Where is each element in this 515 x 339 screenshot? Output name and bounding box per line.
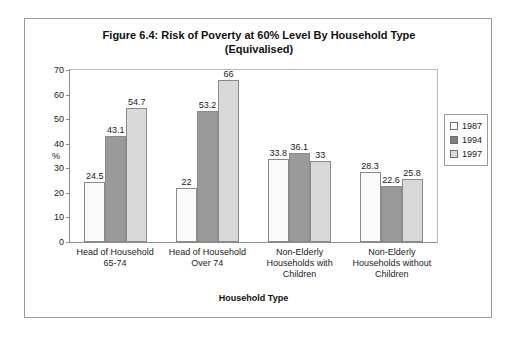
x-category-label-line: Non-Elderly — [348, 247, 436, 258]
x-category-label-line: Households with — [256, 258, 344, 269]
x-category-label: Non-ElderlyHouseholds withChildren — [256, 247, 344, 280]
bar-1997-0[interactable]: 54.7 — [126, 108, 147, 242]
x-category-label-line: Children — [348, 269, 436, 280]
bar-1994-1[interactable]: 53.2 — [197, 111, 218, 242]
bar-value-label: 43.1 — [107, 125, 125, 135]
bar-1994-0[interactable]: 43.1 — [105, 136, 126, 242]
bar-group: 33.836.133 — [268, 70, 331, 242]
bar-value-label: 22 — [182, 177, 192, 187]
x-category-label-line: Children — [256, 269, 344, 280]
chart-title-line-1: Figure 6.4: Risk of Poverty at 60% Level… — [25, 28, 493, 42]
bar-value-label: 25.8 — [403, 168, 421, 178]
bar-1987-1[interactable]: 22 — [176, 188, 197, 242]
bar-group: 24.543.154.7 — [84, 70, 147, 242]
y-tick-30: 30 — [54, 163, 70, 173]
x-axis-category-labels: Head of Household65-74Head of HouseholdO… — [69, 247, 438, 280]
legend-swatch-icon — [450, 136, 458, 144]
bar-1994-3[interactable]: 22.6 — [381, 186, 402, 242]
bar-1997-1[interactable]: 66 — [218, 80, 239, 242]
x-category-label: Non-ElderlyHouseholds withoutChildren — [348, 247, 436, 280]
bar-1994-2[interactable]: 36.1 — [289, 153, 310, 242]
bar-1997-3[interactable]: 25.8 — [402, 179, 423, 242]
x-category-label: Head of Household65-74 — [71, 247, 159, 280]
legend-swatch-icon — [450, 150, 458, 158]
bar-1987-3[interactable]: 28.3 — [360, 172, 381, 242]
y-tick-60: 60 — [54, 90, 70, 100]
y-tick-10: 10 — [54, 212, 70, 222]
legend-label: 1994 — [462, 135, 482, 145]
legend-swatch-icon — [450, 122, 458, 130]
bar-value-label: 22.6 — [382, 175, 400, 185]
x-category-label: Head of HouseholdOver 74 — [163, 247, 251, 280]
chart-title: Figure 6.4: Risk of Poverty at 60% Level… — [25, 28, 493, 56]
y-tick-50: 50 — [54, 114, 70, 124]
bar-value-label: 53.2 — [199, 100, 217, 110]
y-tick-70: 70 — [54, 65, 70, 75]
legend-item-1997[interactable]: 1997 — [450, 147, 482, 161]
y-tickmark-icon — [66, 242, 70, 243]
figure-frame: Figure 6.4: Risk of Poverty at 60% Level… — [24, 18, 492, 318]
y-tick-20: 20 — [54, 188, 70, 198]
x-category-label-line: 65-74 — [71, 258, 159, 269]
x-category-label-line: Over 74 — [163, 258, 251, 269]
y-tick-0: 0 — [59, 237, 70, 247]
legend-item-1994[interactable]: 1994 — [450, 133, 482, 147]
bar-value-label: 33.8 — [270, 148, 288, 158]
x-axis-label: Household Type — [69, 293, 438, 303]
bar-value-label: 33 — [315, 150, 325, 160]
bar-group: 28.322.625.8 — [360, 70, 423, 242]
legend-label: 1987 — [462, 121, 482, 131]
bar-value-label: 54.7 — [128, 97, 146, 107]
chart-title-line-2: (Equivalised) — [25, 42, 493, 56]
bar-value-label: 28.3 — [361, 161, 379, 171]
bar-value-label: 24.5 — [86, 171, 104, 181]
bar-group: 2253.266 — [176, 70, 239, 242]
x-category-label-line: Households without — [348, 258, 436, 269]
x-category-label-line: Head of Household — [163, 247, 251, 258]
x-category-label-line: Non-Elderly — [256, 247, 344, 258]
bar-value-label: 66 — [224, 69, 234, 79]
plot-area: 706050403020100 24.543.154.72253.26633.8… — [69, 69, 438, 243]
x-category-label-line: Head of Household — [71, 247, 159, 258]
legend: 198719941997 — [444, 114, 488, 166]
bar-1987-2[interactable]: 33.8 — [268, 159, 289, 242]
bar-groups: 24.543.154.72253.26633.836.13328.322.625… — [70, 70, 437, 242]
legend-item-1987[interactable]: 1987 — [450, 119, 482, 133]
bar-value-label: 36.1 — [291, 142, 309, 152]
legend-label: 1997 — [462, 149, 482, 159]
bar-1997-2[interactable]: 33 — [310, 161, 331, 242]
bar-1987-0[interactable]: 24.5 — [84, 182, 105, 242]
y-tick-40: 40 — [54, 139, 70, 149]
